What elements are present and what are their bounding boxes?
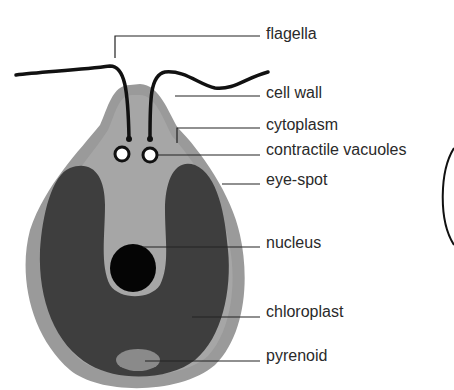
adjacent-cell-edge (443, 148, 454, 245)
label-nucleus: nucleus (266, 235, 321, 251)
label-contractile-vacuoles: contractile vacuoles (266, 142, 407, 158)
contractile-vacuole-left (115, 147, 129, 161)
label-chloroplast: chloroplast (266, 304, 343, 320)
nucleus-shape (110, 244, 156, 292)
label-cell-wall: cell wall (266, 85, 322, 101)
label-cytoplasm: cytoplasm (266, 117, 338, 133)
label-pyrenoid: pyrenoid (266, 348, 327, 364)
cell-diagram (0, 0, 454, 390)
label-flagella: flagella (266, 26, 317, 42)
pyrenoid-shape (116, 349, 160, 371)
contractile-vacuole-right (143, 148, 157, 162)
label-eye-spot: eye-spot (266, 172, 327, 188)
